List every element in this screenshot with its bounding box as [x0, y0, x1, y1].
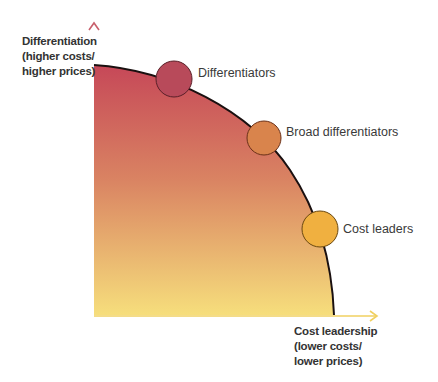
broad-differentiators-marker [247, 121, 281, 155]
y-axis-label-line: Differentiation [22, 34, 97, 49]
cost-leaders-label: Cost leaders [343, 222, 413, 236]
y-axis-label-line: higher prices) [22, 64, 97, 79]
y-axis-label-line: (higher costs/ [22, 49, 97, 64]
x-axis-label-line: (lower costs/ [294, 339, 377, 354]
x-axis-label: Cost leadership (lower costs/ lower pric… [294, 324, 377, 369]
differentiators-label: Differentiators [198, 66, 276, 80]
x-axis-label-line: lower prices) [294, 354, 377, 369]
broad-differentiators-label: Broad differentiators [286, 125, 398, 139]
x-axis-label-line: Cost leadership [294, 324, 377, 339]
y-axis-label: Differentiation (higher costs/ higher pr… [22, 34, 97, 79]
cost-leaders-marker [302, 211, 338, 247]
differentiators-marker [156, 61, 192, 97]
